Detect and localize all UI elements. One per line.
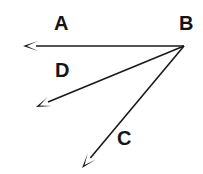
vector-a — [23, 41, 184, 51]
vector-c-shaft — [90, 46, 184, 158]
vector-label-c: C — [117, 128, 131, 148]
vector-diagram-canvas — [0, 0, 203, 174]
vector-label-b: B — [179, 13, 193, 33]
vector-a-arrowhead — [23, 41, 38, 51]
vector-c — [82, 46, 184, 168]
vector-label-a: A — [54, 13, 68, 33]
vector-label-d: D — [55, 60, 69, 80]
vector-diagram: A B C D — [0, 0, 203, 174]
